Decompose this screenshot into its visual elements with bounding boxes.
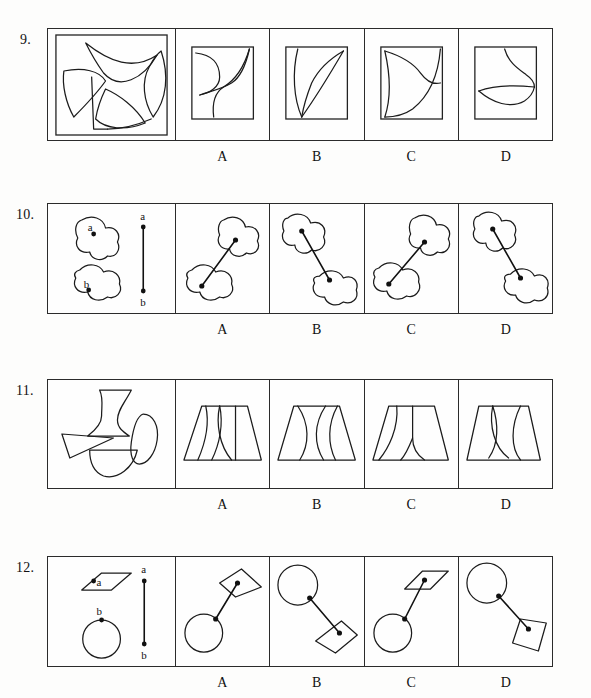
question-9-option-a[interactable] (176, 29, 270, 140)
option-label-a: A (175, 319, 270, 341)
question-11-option-a[interactable] (176, 380, 270, 488)
question-9-option-b-figure (270, 29, 363, 140)
question-12-prompt-figure: a b a b (48, 557, 175, 666)
label-spacer (47, 494, 175, 516)
option-label-c: C (364, 319, 459, 341)
option-label-c: C (364, 672, 459, 694)
segment-label-a: a (140, 210, 145, 222)
label-spacer (47, 146, 175, 168)
option-label-c: C (364, 494, 459, 516)
option-label-b: B (270, 672, 365, 694)
question-10-option-labels: A B C D (47, 319, 553, 341)
question-12-option-a-figure (176, 557, 269, 666)
question-9-option-labels: A B C D (47, 146, 553, 168)
question-9-option-c-figure (365, 29, 458, 140)
option-label-a: A (175, 146, 270, 168)
question-number-12: 12. (16, 560, 34, 576)
question-12-option-c[interactable] (365, 557, 459, 666)
question-12-option-labels: A B C D (47, 672, 553, 694)
option-label-a: A (175, 494, 270, 516)
question-10-option-a-figure (176, 204, 269, 313)
option-label-d: D (459, 672, 554, 694)
question-10-frame: a b a b (47, 203, 553, 314)
question-9-option-a-figure (176, 29, 269, 140)
question-10-prompt-figure: a b a b (48, 204, 175, 313)
segment-label-a: a (141, 563, 146, 575)
question-12-prompt-panel: a b a b (48, 557, 176, 666)
option-label-b: B (270, 146, 365, 168)
question-number-9: 9. (20, 32, 31, 48)
question-11-frame (47, 379, 553, 489)
prompt-label-b: b (84, 278, 90, 290)
question-12-option-d-figure (459, 557, 552, 666)
question-10-option-d[interactable] (459, 204, 552, 313)
label-spacer (47, 319, 175, 341)
question-10-option-d-figure (459, 204, 552, 313)
question-number-10: 10. (16, 207, 34, 223)
question-11-option-b[interactable] (270, 380, 364, 488)
option-label-b: B (270, 319, 365, 341)
option-label-b: B (270, 494, 365, 516)
question-10-option-c[interactable] (365, 204, 459, 313)
worksheet-page: 9. (0, 0, 591, 698)
question-9-option-d-figure (459, 29, 552, 140)
question-10-prompt-panel: a b a b (48, 204, 176, 313)
question-11-option-labels: A B C D (47, 494, 553, 516)
question-12-option-c-figure (365, 557, 458, 666)
question-9-option-c[interactable] (365, 29, 459, 140)
option-label-d: D (459, 146, 554, 168)
option-label-a: A (175, 672, 270, 694)
question-12-option-a[interactable] (176, 557, 270, 666)
question-11-prompt-panel (48, 380, 176, 488)
question-11-option-d-figure (459, 380, 552, 488)
option-label-d: D (459, 494, 554, 516)
prompt-label-a: a (97, 576, 102, 588)
question-10-option-b[interactable] (270, 204, 364, 313)
question-9-frame (47, 28, 553, 141)
question-11-prompt-figure (48, 380, 175, 488)
question-11-option-c[interactable] (365, 380, 459, 488)
question-12-option-d[interactable] (459, 557, 552, 666)
question-10-option-a[interactable] (176, 204, 270, 313)
question-11-option-c-figure (365, 380, 458, 488)
question-9-option-b[interactable] (270, 29, 364, 140)
question-12-option-b-figure (270, 557, 363, 666)
option-label-d: D (459, 319, 554, 341)
question-9-prompt-panel (48, 29, 176, 140)
question-11-option-d[interactable] (459, 380, 552, 488)
question-12-option-b[interactable] (270, 557, 364, 666)
prompt-label-b: b (97, 605, 103, 617)
question-12-frame: a b a b (47, 556, 553, 667)
question-11-option-a-figure (176, 380, 269, 488)
question-11-option-b-figure (270, 380, 363, 488)
question-9-prompt-figure (48, 29, 175, 140)
segment-label-b: b (141, 649, 147, 661)
option-label-c: C (364, 146, 459, 168)
label-spacer (47, 672, 175, 694)
question-10-option-c-figure (365, 204, 458, 313)
segment-label-b: b (140, 296, 146, 308)
question-10-option-b-figure (270, 204, 363, 313)
question-number-11: 11. (16, 383, 34, 399)
prompt-label-a: a (88, 221, 93, 233)
question-9-option-d[interactable] (459, 29, 552, 140)
